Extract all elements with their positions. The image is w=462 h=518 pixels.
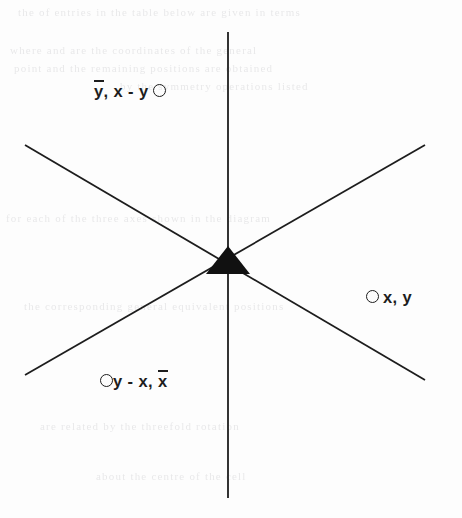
label-y-minus-x-x-bar: y - x, x: [100, 372, 168, 391]
axes-and-marker-graphic: [0, 0, 462, 518]
open-circle-marker-icon: [366, 290, 379, 303]
open-circle-marker-icon: [100, 374, 113, 387]
overline-variable-x: x: [158, 372, 168, 391]
label-topleft-text: , x - y: [104, 82, 149, 100]
figure-canvas: the of entries in the table below are gi…: [0, 0, 462, 518]
label-x-y: x, y: [366, 288, 412, 307]
label-y-bar-x-minus-y: y, x - y: [94, 82, 166, 101]
label-botleft-text: y - x,: [113, 372, 158, 390]
overline-variable-y: y: [94, 82, 104, 101]
label-right-text: x, y: [383, 288, 412, 306]
open-circle-marker-icon: [153, 84, 166, 97]
